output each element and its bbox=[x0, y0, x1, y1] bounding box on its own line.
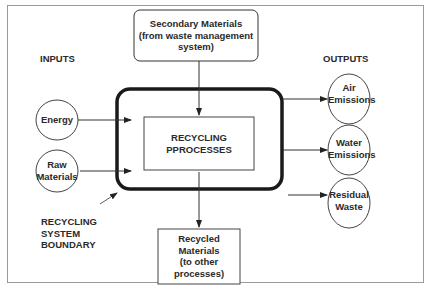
system-boundary-label: RECYCLING SYSTEM BOUNDARY bbox=[41, 216, 97, 251]
outputs-header: OUTPUTS bbox=[323, 53, 368, 64]
inputs-header: INPUTS bbox=[40, 53, 75, 64]
recycled-materials-label: Recycled Materials (to other processes) bbox=[158, 233, 240, 279]
secondary-materials-label: Secondary Materials (from waste manageme… bbox=[134, 18, 258, 53]
water-emissions-label: Water Emissions bbox=[328, 137, 370, 160]
raw-materials-label: Raw Materials bbox=[36, 159, 78, 182]
air-emissions-label: Air Emissions bbox=[328, 82, 370, 105]
arrow-boundary-pointer bbox=[100, 193, 117, 204]
residual-waste-label: Residual Waste bbox=[328, 189, 370, 212]
energy-label: Energy bbox=[36, 114, 78, 126]
recycling-processes-label: RECYCLING PPROCESSES bbox=[144, 132, 254, 155]
